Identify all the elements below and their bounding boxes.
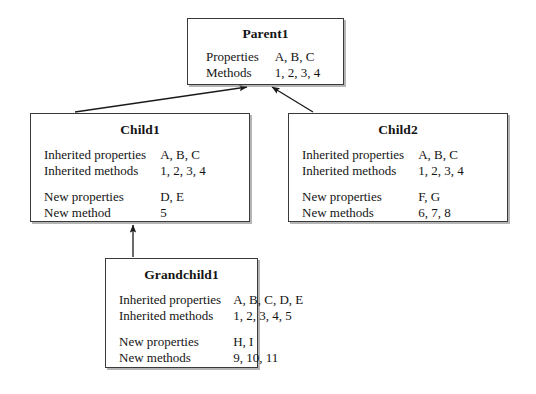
member-row: Methods 1, 2, 3, 4: [206, 65, 320, 81]
member-value: F, G: [418, 189, 464, 205]
member-label: Inherited properties: [119, 292, 233, 308]
member-label: New properties: [119, 334, 233, 350]
class-members-child1: Inherited properties A, B, C Inherited m…: [44, 147, 206, 220]
member-row: Inherited properties A, B, C: [302, 147, 464, 163]
member-value: 9, 10, 11: [233, 350, 303, 366]
member-value: 5: [160, 205, 206, 221]
member-row: New methods 6, 7, 8: [302, 205, 464, 221]
member-value: D, E: [160, 189, 206, 205]
inheritance-diagram: Parent1 Properties A, B, C Methods 1, 2,…: [0, 0, 536, 394]
member-row: Inherited methods 1, 2, 3, 4: [302, 163, 464, 179]
class-members-grandchild1: Inherited properties A, B, C, D, E Inher…: [119, 292, 303, 365]
member-value: A, B, C: [160, 147, 206, 163]
class-box-child2: Child2 Inherited properties A, B, C Inhe…: [288, 113, 508, 222]
member-row: New methods 9, 10, 11: [119, 350, 303, 366]
member-label: New methods: [119, 350, 233, 366]
class-members-child2: Inherited properties A, B, C Inherited m…: [302, 147, 464, 220]
edge-child2-to-parent1: [272, 87, 313, 112]
class-title-child2: Child2: [289, 122, 507, 138]
member-value: 1, 2, 3, 4: [160, 163, 206, 179]
member-row-spacer: [44, 178, 206, 189]
member-row: New properties F, G: [302, 189, 464, 205]
member-label: Inherited methods: [302, 163, 418, 179]
member-label: Inherited methods: [119, 308, 233, 324]
member-label: [302, 178, 418, 189]
member-label: New properties: [302, 189, 418, 205]
member-row: Inherited methods 1, 2, 3, 4, 5: [119, 308, 303, 324]
member-row: Inherited properties A, B, C: [44, 147, 206, 163]
class-title-parent1: Parent1: [188, 26, 343, 42]
member-label: [119, 323, 233, 334]
member-value: 6, 7, 8: [418, 205, 464, 221]
member-label: New properties: [44, 189, 160, 205]
member-label: [44, 178, 160, 189]
member-label: Properties: [206, 49, 275, 65]
member-value: [233, 323, 303, 334]
member-label: Inherited properties: [302, 147, 418, 163]
member-value: 1, 2, 3, 4: [275, 65, 321, 81]
member-value: H, I: [233, 334, 303, 350]
member-value: 1, 2, 3, 4: [418, 163, 464, 179]
member-value: 1, 2, 3, 4, 5: [233, 308, 303, 324]
member-row-spacer: [119, 323, 303, 334]
member-value: A, B, C: [275, 49, 321, 65]
member-row: New properties D, E: [44, 189, 206, 205]
member-row: New method 5: [44, 205, 206, 221]
class-title-child1: Child1: [31, 122, 249, 138]
member-value: A, B, C, D, E: [233, 292, 303, 308]
member-label: Inherited methods: [44, 163, 160, 179]
class-box-parent1: Parent1 Properties A, B, C Methods 1, 2,…: [187, 18, 344, 85]
member-label: New methods: [302, 205, 418, 221]
member-label: Inherited properties: [44, 147, 160, 163]
member-row: Properties A, B, C: [206, 49, 320, 65]
member-value: [418, 178, 464, 189]
member-value: A, B, C: [418, 147, 464, 163]
class-members-parent1: Properties A, B, C Methods 1, 2, 3, 4: [206, 49, 320, 80]
edge-child1-to-parent1: [75, 87, 247, 112]
class-box-child1: Child1 Inherited properties A, B, C Inhe…: [30, 113, 250, 222]
class-title-grandchild1: Grandchild1: [106, 267, 257, 283]
member-value: [160, 178, 206, 189]
member-row-spacer: [302, 178, 464, 189]
member-label: New method: [44, 205, 160, 221]
member-label: Methods: [206, 65, 275, 81]
member-row: New properties H, I: [119, 334, 303, 350]
member-row: Inherited properties A, B, C, D, E: [119, 292, 303, 308]
member-row: Inherited methods 1, 2, 3, 4: [44, 163, 206, 179]
class-box-grandchild1: Grandchild1 Inherited properties A, B, C…: [105, 258, 258, 368]
